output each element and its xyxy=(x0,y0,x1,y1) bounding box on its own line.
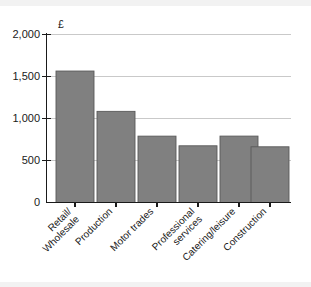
ytick-label-1000: 1,000 xyxy=(12,112,40,124)
xtick-label-group-3: Motor trades xyxy=(108,206,155,253)
ytick-label-500: 500 xyxy=(22,154,40,166)
xtick-label-group-1: Retail/ Wholesale xyxy=(33,205,82,254)
bar-chart-svg: 2,000 1,500 1,000 500 0 £ Retail/ Wholes… xyxy=(0,0,311,287)
bar-professional-services xyxy=(179,146,217,203)
bar-retail-wholesale xyxy=(56,71,94,202)
bar-production xyxy=(97,111,135,202)
xtick-label-3-line-1: Motor trades xyxy=(108,206,155,253)
ytick-label-2000: 2,000 xyxy=(12,28,40,40)
ytick-label-1500: 1,500 xyxy=(12,70,40,82)
xtick-label-group-2: Production xyxy=(73,206,115,248)
xtick-label-2-line-1: Production xyxy=(73,206,115,248)
ytick-label-0: 0 xyxy=(34,196,40,208)
bar-chart-plot: 2,000 1,500 1,000 500 0 £ Retail/ Wholes… xyxy=(0,0,311,287)
y-axis-unit-label: £ xyxy=(58,18,64,30)
chart-figure: 2,000 1,500 1,000 500 0 £ Retail/ Wholes… xyxy=(0,0,311,287)
bars xyxy=(56,71,289,202)
x-axis-tick-labels: Retail/ Wholesale Production Motor trade… xyxy=(33,205,269,263)
bar-motor-trades xyxy=(138,136,176,202)
bar-construction xyxy=(251,147,289,203)
y-axis-tick-labels: 2,000 1,500 1,000 500 0 xyxy=(12,28,40,208)
